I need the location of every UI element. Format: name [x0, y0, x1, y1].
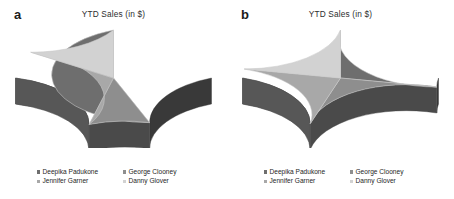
figure-two-pie-charts: a YTD Sales (in $) Deepika PadukoneGeorg…	[0, 0, 454, 199]
legend-swatch-icon	[37, 180, 40, 183]
legend-item-label: Danny Glover	[355, 178, 395, 185]
legend-item[interactable]: Jennifer Garner	[35, 178, 123, 185]
legend-item[interactable]: Deepika Padukone	[35, 169, 123, 176]
pie-svg-b	[227, 20, 454, 148]
legend-item[interactable]: George Clooney	[350, 169, 420, 176]
legend-swatch-icon	[123, 170, 126, 173]
pie-side-wall	[89, 121, 149, 148]
legend-swatch-icon	[37, 170, 40, 173]
legend-a: Deepika PadukoneGeorge ClooneyJennifer G…	[0, 169, 227, 185]
legend-swatch-icon	[350, 180, 353, 183]
chart-title-b: YTD Sales (in $)	[227, 9, 454, 19]
legend-swatch-icon	[264, 170, 267, 173]
legend-swatch-icon	[350, 170, 353, 173]
panel-b: b YTD Sales (in $) Deepika PadukoneGeorg…	[227, 0, 454, 199]
legend-item[interactable]: Danny Glover	[350, 178, 420, 185]
pie-slice[interactable]	[339, 30, 437, 87]
pie-chart-a	[0, 20, 227, 148]
legend-b: Deepika PadukoneGeorge ClooneyJennifer G…	[227, 169, 454, 185]
pie-side-wall	[150, 78, 212, 148]
legend-item-label: George Clooney	[355, 169, 403, 176]
pie-side-wall	[437, 78, 439, 113]
legend-item-label: Jennifer Garner	[42, 178, 88, 185]
legend-item[interactable]: Danny Glover	[123, 178, 193, 185]
legend-swatch-icon	[123, 180, 126, 183]
legend-item[interactable]: Jennifer Garner	[262, 178, 350, 185]
legend-item-label: Danny Glover	[128, 178, 168, 185]
legend-item-label: Deepika Padukone	[269, 169, 325, 176]
pie-chart-b	[227, 20, 454, 148]
chart-title-a: YTD Sales (in $)	[0, 9, 227, 19]
legend-item-label: George Clooney	[128, 169, 176, 176]
legend-item-label: Deepika Padukone	[42, 169, 98, 176]
legend-item-label: Jennifer Garner	[269, 178, 315, 185]
pie-svg-a	[0, 20, 227, 148]
legend-item[interactable]: Deepika Padukone	[262, 169, 350, 176]
legend-item[interactable]: George Clooney	[123, 169, 193, 176]
legend-swatch-icon	[264, 180, 267, 183]
panel-a: a YTD Sales (in $) Deepika PadukoneGeorg…	[0, 0, 227, 199]
